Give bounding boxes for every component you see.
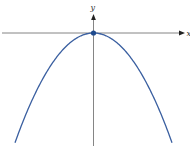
vertex-point (91, 30, 96, 35)
y-axis-label: y (90, 3, 96, 12)
parabola-plot: x y (0, 0, 190, 146)
x-axis-label: x (187, 29, 191, 38)
y-axis-arrow-icon (91, 14, 96, 20)
x-axis-arrow-icon (179, 31, 185, 36)
